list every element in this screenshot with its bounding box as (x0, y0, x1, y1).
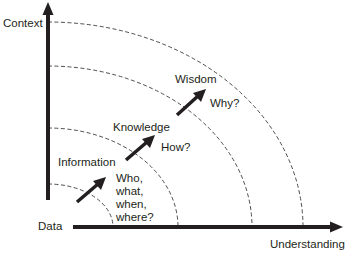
level-label-knowledge: Knowledge (113, 120, 170, 134)
question-knowledge: How? (161, 140, 190, 154)
y-axis-label: Context (3, 16, 43, 30)
arrow-knowledge-to-wisdom (177, 96, 198, 115)
question-wisdom: Why? (210, 96, 239, 110)
x-axis-label: Understanding (270, 237, 345, 251)
y-axis-arrowhead-icon (43, 2, 54, 15)
level-label-wisdom: Wisdom (175, 72, 217, 86)
origin-label-data: Data (38, 219, 62, 233)
diagram-graphics (0, 0, 349, 255)
arrow-information-to-knowledge (126, 142, 147, 160)
x-axis (73, 222, 343, 233)
arc-information (48, 128, 178, 227)
arrow-data-to-information (77, 184, 98, 202)
dikw-diagram: Context Understanding Data Information K… (0, 0, 349, 255)
y-axis (43, 2, 54, 200)
level-label-information: Information (58, 155, 116, 169)
x-axis-arrowhead-icon (330, 222, 343, 233)
question-information: Who, what, when, where? (116, 172, 154, 224)
